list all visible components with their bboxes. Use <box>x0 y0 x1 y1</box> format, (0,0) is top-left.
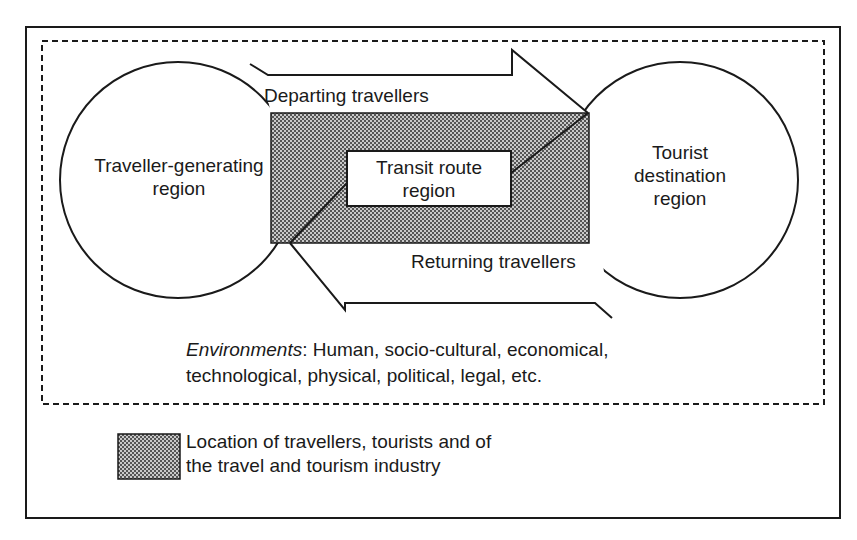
legend-line1: Location of travellers, tourists and of <box>186 430 491 454</box>
destination-line3: region <box>610 187 750 210</box>
destination-line2: destination <box>610 164 750 187</box>
destination-line1: Tourist <box>610 141 750 164</box>
environments-text-line1: : Human, socio-cultural, economical, <box>302 339 608 360</box>
generating-region-label: Traveller-generating region <box>74 154 284 200</box>
environments-text-line2: technological, physical, political, lega… <box>186 363 608 389</box>
legend-text: Location of travellers, tourists and of … <box>186 430 491 478</box>
environments-line1: Environments: Human, socio-cultural, eco… <box>186 337 608 363</box>
transit-line2: region <box>347 179 511 202</box>
departing-label: Departing travellers <box>264 84 429 107</box>
generating-line1: Traveller-generating <box>74 154 284 177</box>
destination-region-label: Tourist destination region <box>610 141 750 210</box>
generating-line2: region <box>74 177 284 200</box>
transit-line1: Transit route <box>347 156 511 179</box>
returning-label: Returning travellers <box>411 250 576 273</box>
legend-swatch <box>118 434 180 479</box>
environments-label: Environments <box>186 339 302 360</box>
transit-region-label: Transit route region <box>347 156 511 202</box>
legend-line2: the travel and tourism industry <box>186 454 491 478</box>
environments-text: Environments: Human, socio-cultural, eco… <box>186 337 608 389</box>
